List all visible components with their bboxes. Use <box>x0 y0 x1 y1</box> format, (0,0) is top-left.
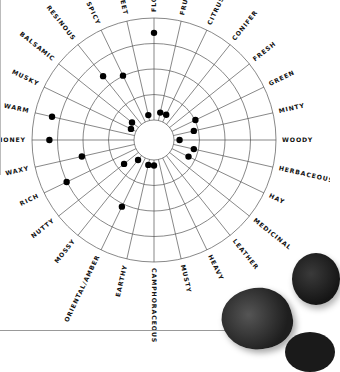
axis-spoke <box>127 159 150 258</box>
data-dot <box>176 137 182 143</box>
axis-label-spicy: SPICY <box>85 0 102 25</box>
axis-spoke <box>127 21 150 120</box>
axis-spoke <box>172 87 264 131</box>
rose-petal-icon <box>292 253 340 305</box>
axis-label-herbaceous: HERBACEOUS <box>278 164 330 183</box>
axis-label-musky: MUSKY <box>11 68 41 87</box>
axis-label-leather: LEATHER <box>232 237 261 270</box>
data-dot <box>135 157 141 163</box>
rose-petal-icon <box>285 332 335 372</box>
axis-label-oriental-amber: ORIENTAL/AMBER <box>63 253 101 322</box>
axis-label-fresh: FRESH <box>251 40 277 63</box>
axis-spoke <box>78 45 142 125</box>
data-dot <box>46 137 52 143</box>
axis-label-citrus: CITRUS <box>206 0 226 26</box>
axis-label-green: GREEN <box>267 68 295 86</box>
axis-spoke <box>166 45 230 125</box>
axis-label-resinous: RESINOUS <box>45 4 77 42</box>
axis-label-rich: RICH <box>18 192 39 207</box>
axis-spoke <box>170 152 250 216</box>
axis-label-nutty: NUTTY <box>30 216 56 239</box>
data-dot <box>145 162 151 168</box>
axis-label-camphoraceous: CAMPHORACEOUS <box>151 268 158 343</box>
axis-label-sweet: SWEET <box>117 0 130 16</box>
data-dot <box>191 128 197 134</box>
axis-spoke <box>173 113 272 136</box>
axis-label-heavy: HEAVY <box>207 253 225 281</box>
data-dot <box>120 72 126 78</box>
axis-label-floral: FLORAL <box>150 0 157 12</box>
axis-label-waxy: WAXY <box>5 164 30 176</box>
axis-spoke <box>44 149 136 193</box>
data-dot <box>121 161 127 167</box>
data-dot <box>151 30 157 36</box>
data-dot <box>163 111 169 117</box>
axis-label-minty: MINTY <box>278 101 306 114</box>
axis-spoke <box>59 64 139 128</box>
axis-spoke <box>170 64 250 128</box>
data-dot <box>128 126 134 132</box>
axis-label-fruity: FRUITY <box>178 0 192 16</box>
axis-spoke <box>158 21 181 120</box>
data-dot <box>151 162 157 168</box>
data-dot <box>63 179 69 185</box>
axis-label-honey: HONEY <box>0 136 26 143</box>
data-dot <box>157 109 163 115</box>
axis-spoke <box>78 156 142 236</box>
grid-ring <box>134 120 174 160</box>
data-dot <box>185 153 191 159</box>
axis-label-medicinal: MEDICINAL <box>252 216 293 251</box>
axis-label-woody: WOODY <box>282 136 313 143</box>
axis-label-musty: MUSTY <box>180 264 193 294</box>
left-rule <box>0 0 1 175</box>
axis-label-mossy: MOSSY <box>53 237 77 264</box>
axis-label-warm: WARM <box>3 102 30 115</box>
data-dot <box>119 203 125 209</box>
axis-spoke <box>158 159 181 258</box>
axis-label-earthy: EARTHY <box>114 264 128 298</box>
axis-label-hay: HAY <box>268 192 286 206</box>
data-dot <box>79 153 85 159</box>
data-dot <box>191 146 197 152</box>
axis-label-balsamic: BALSAMIC <box>19 30 57 62</box>
axis-spoke <box>44 87 136 131</box>
data-dot <box>100 73 106 79</box>
data-dot <box>145 112 151 118</box>
data-dot <box>192 117 198 123</box>
axis-label-conifer: CONIFER <box>230 8 258 41</box>
axis-spoke <box>163 158 207 250</box>
axis-spoke <box>166 156 230 236</box>
axis-spoke <box>163 30 207 122</box>
data-dot <box>129 119 135 125</box>
data-dot <box>49 114 55 120</box>
